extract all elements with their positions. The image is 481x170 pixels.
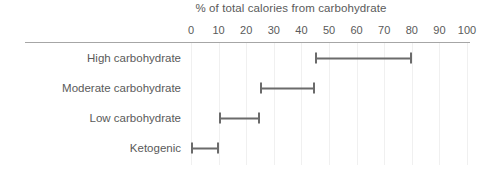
category-label: Moderate carbohydrate bbox=[0, 82, 181, 94]
chart-row: Moderate carbohydrate bbox=[0, 73, 475, 103]
x-tick-label: 80 bbox=[397, 24, 427, 36]
range-end-cap bbox=[217, 143, 219, 154]
chart-title: % of total calories from carbohydrate bbox=[175, 2, 407, 14]
chart-row: Ketogenic bbox=[0, 133, 475, 163]
category-label: High carbohydrate bbox=[0, 52, 181, 64]
range-bar bbox=[191, 143, 219, 154]
range-line bbox=[219, 117, 260, 119]
range-line bbox=[191, 147, 219, 149]
x-tick-label: 50 bbox=[314, 24, 344, 36]
x-tick-label: 60 bbox=[342, 24, 372, 36]
range-end-cap bbox=[313, 83, 315, 94]
range-line bbox=[315, 57, 412, 59]
range-bar bbox=[260, 83, 315, 94]
x-tick-label: 0 bbox=[176, 24, 206, 36]
x-tick-label: 70 bbox=[369, 24, 399, 36]
x-tick-label: 90 bbox=[424, 24, 454, 36]
range-start-cap bbox=[191, 143, 193, 154]
range-start-cap bbox=[315, 53, 317, 64]
x-tick-label: 10 bbox=[204, 24, 234, 36]
range-start-cap bbox=[219, 113, 221, 124]
plot-area: High carbohydrateModerate carbohydrateLo… bbox=[0, 43, 475, 165]
x-tick-label: 30 bbox=[259, 24, 289, 36]
chart-row: High carbohydrate bbox=[0, 43, 475, 73]
range-bar bbox=[315, 53, 412, 64]
x-tick-label: 40 bbox=[286, 24, 316, 36]
x-axis-tick-labels: 0102030405060708090100 bbox=[0, 24, 475, 38]
range-end-cap bbox=[258, 113, 260, 124]
range-end-cap bbox=[410, 53, 412, 64]
range-start-cap bbox=[260, 83, 262, 94]
category-label: Ketogenic bbox=[0, 142, 181, 154]
x-tick-label: 20 bbox=[231, 24, 261, 36]
category-label: Low carbohydrate bbox=[0, 112, 181, 124]
range-bar bbox=[219, 113, 260, 124]
range-line bbox=[260, 87, 315, 89]
x-tick-label: 100 bbox=[452, 24, 481, 36]
chart-row: Low carbohydrate bbox=[0, 103, 475, 133]
